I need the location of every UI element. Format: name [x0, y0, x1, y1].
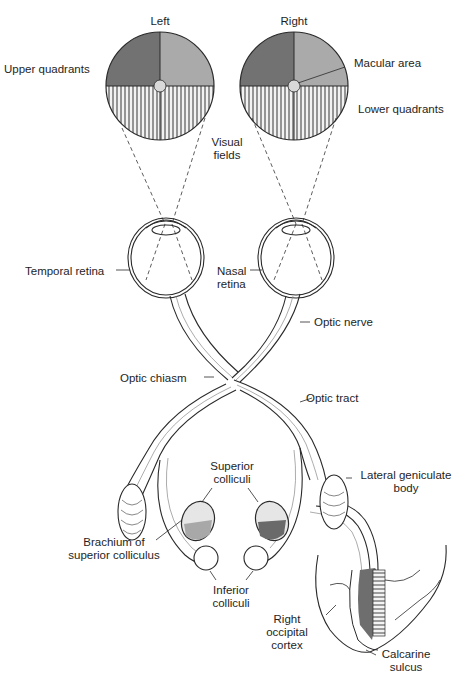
- left-superior-colliculus: [176, 497, 220, 546]
- superior-colliculi-label: Superior colliculi: [204, 460, 260, 486]
- left-eye: [128, 218, 204, 298]
- visual-pathway-diagram: Left Right Upper quadrants Macular area …: [0, 0, 468, 679]
- inferior-colliculi-label: Inferior colliculi: [208, 584, 254, 610]
- left-visual-field: [106, 32, 214, 140]
- macular-area-label: Macular area: [354, 57, 421, 70]
- visual-fields-label: Visual fields: [207, 136, 247, 162]
- right-field-title: Right: [276, 15, 312, 28]
- right-visual-field: [240, 32, 348, 140]
- right-inferior-colliculus: [244, 546, 268, 570]
- occipital-cortex-label: Right occipital cortex: [262, 613, 312, 652]
- optic-chiasm-label: Optic chiasm: [120, 372, 186, 385]
- optic-tract-label: Optic tract: [306, 392, 358, 405]
- macula-left: [154, 80, 166, 92]
- lower-quadrants-label: Lower quadrants: [358, 103, 444, 116]
- macula-right: [288, 80, 300, 92]
- optic-nerve-label: Optic nerve: [314, 316, 373, 329]
- calcarine-sulcus-label: Calcarine sulcus: [378, 648, 434, 674]
- diagram-drawing: [0, 0, 468, 679]
- lateral-geniculate-label: Lateral geniculate body: [352, 469, 460, 495]
- left-inferior-colliculus: [194, 546, 218, 570]
- right-superior-colliculus: [250, 497, 294, 546]
- left-lateral-geniculate: [118, 484, 146, 540]
- nasal-retina-label: Nasal retina: [217, 265, 246, 291]
- right-occipital-lobe: [316, 545, 446, 652]
- right-eye: [258, 218, 334, 298]
- right-lateral-geniculate: [320, 475, 348, 529]
- left-field-title: Left: [145, 15, 175, 28]
- brachium-label: Brachium of superior colliculus: [58, 536, 170, 562]
- upper-quadrants-label: Upper quadrants: [4, 63, 90, 76]
- temporal-retina-label: Temporal retina: [25, 265, 104, 278]
